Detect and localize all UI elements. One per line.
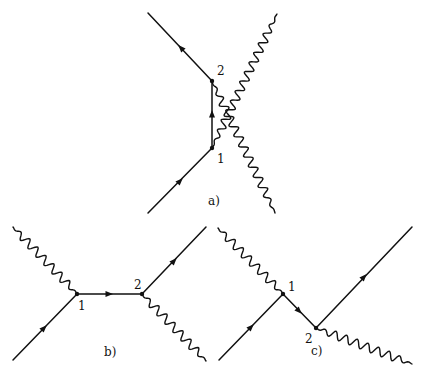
- diagram-caption: c): [311, 344, 322, 358]
- vertex-label-2: 2: [134, 278, 142, 292]
- vertex-label-1: 1: [288, 280, 296, 294]
- vertex-2: [140, 292, 144, 296]
- vertex-1: [75, 292, 79, 296]
- vertex-1: [210, 146, 214, 150]
- photon-line-2: [212, 81, 275, 213]
- diagram-caption: a): [208, 194, 220, 208]
- diagram-a: 12a): [148, 13, 277, 213]
- photon-line-2: [316, 328, 412, 364]
- vertex-1: [281, 292, 285, 296]
- feynman-diagram-figure: 12a) 12b) 12c): [0, 0, 424, 372]
- diagram-b: 12b): [13, 227, 206, 361]
- photon-line-2: [142, 294, 206, 361]
- photon-line-1: [218, 228, 283, 294]
- vertex-label-1: 1: [217, 152, 225, 166]
- vertex-2: [210, 79, 214, 83]
- diagram-c: 12c): [218, 227, 412, 364]
- photon-line-1: [13, 227, 77, 294]
- vertex-label-2: 2: [217, 64, 225, 78]
- arrow-icon: [106, 291, 114, 297]
- photon-line-1: [212, 14, 277, 148]
- vertex-label-1: 1: [78, 299, 86, 313]
- diagram-caption: b): [104, 345, 116, 359]
- arrow-icon: [209, 110, 215, 118]
- vertex-2: [314, 326, 318, 330]
- diagram-canvas: 12a) 12b) 12c): [0, 0, 424, 372]
